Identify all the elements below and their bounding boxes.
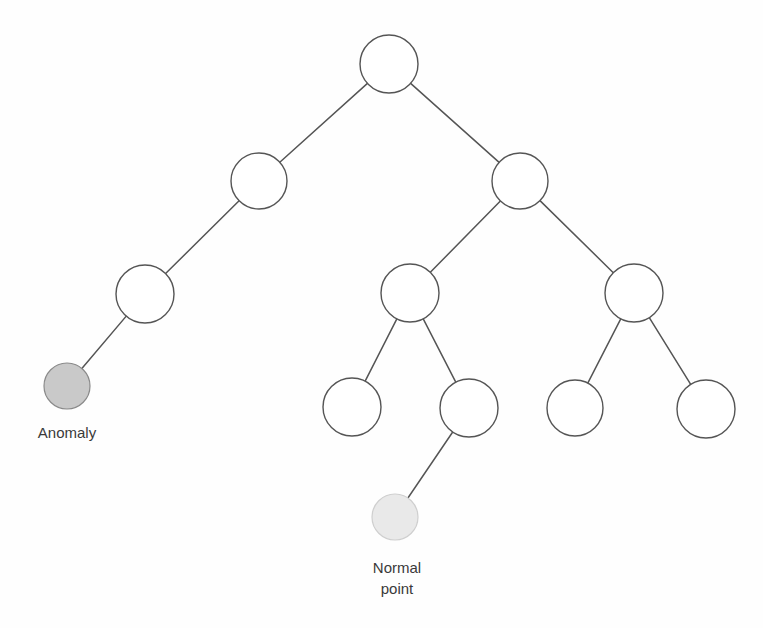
tree-node-n-rl	[381, 264, 439, 322]
tree-edge-n-rl-to-n-rlr	[423, 319, 456, 382]
tree-nodes-group	[44, 35, 735, 540]
tree-node-root	[360, 35, 418, 93]
tree-node-n-anom	[44, 363, 90, 409]
tree-node-n-ll	[116, 265, 174, 323]
tree-edge-n-r-to-n-rr	[540, 201, 613, 273]
tree-node-n-rrr	[677, 380, 735, 438]
tree-node-n-normal	[372, 494, 418, 540]
tree-edge-n-rl-to-n-rll	[365, 319, 397, 381]
tree-node-n-rrl	[547, 380, 603, 436]
label-normal: Normalpoint	[373, 559, 421, 597]
tree-edge-n-l-to-n-ll	[166, 201, 240, 274]
tree-node-n-l	[231, 153, 287, 209]
tree-node-n-rr	[605, 264, 663, 322]
label-anomaly: Anomaly	[38, 424, 97, 441]
tree-node-n-r	[492, 153, 548, 209]
label-anomaly-line-0: Anomaly	[38, 424, 97, 441]
tree-edge-n-ll-to-n-anom	[82, 316, 126, 368]
tree-edge-n-rlr-to-n-normal	[408, 432, 453, 498]
tree-edge-root-to-n-l	[280, 83, 368, 162]
tree-node-n-rll	[323, 378, 381, 436]
label-normal-line-1: point	[381, 580, 414, 597]
tree-edge-n-r-to-n-rl	[430, 201, 500, 272]
tree-edge-n-rr-to-n-rrl	[588, 319, 621, 383]
label-normal-line-0: Normal	[373, 559, 421, 576]
tree-edge-n-rr-to-n-rrr	[649, 318, 690, 385]
tree-canvas: AnomalyNormalpoint	[0, 0, 763, 628]
tree-edge-root-to-n-r	[411, 83, 499, 162]
isolation-tree-diagram: AnomalyNormalpoint	[0, 0, 763, 628]
tree-labels-group: AnomalyNormalpoint	[38, 424, 421, 597]
tree-node-n-rlr	[440, 379, 498, 437]
